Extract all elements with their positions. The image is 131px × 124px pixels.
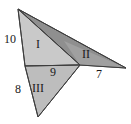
edge-label-middle: 9 (50, 66, 56, 78)
edge-label-right: 7 (96, 68, 102, 80)
edge-label-left-upper: 10 (4, 33, 16, 45)
region-label-II: II (82, 48, 90, 60)
edge-label-left-lower: 8 (15, 83, 21, 95)
figure-canvas (0, 0, 131, 124)
region-label-I: I (36, 38, 40, 50)
region-label-III: III (32, 82, 44, 94)
geometry-figure: I II III 10 8 9 7 (0, 0, 131, 124)
